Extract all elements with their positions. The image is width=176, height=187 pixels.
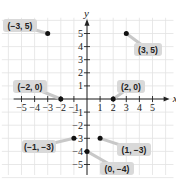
x-axis-label: x [172,92,176,104]
x-axis-arrow-icon [164,97,170,102]
data-point [111,97,116,102]
x-tick-label: −3 [42,102,53,113]
point-label: (−1, −3) [24,142,54,152]
point-label: (1, −3) [122,145,147,155]
y-tick-label: 3 [78,54,83,65]
y-tick-label: −5 [72,159,83,170]
point-label: (0, −4) [105,164,130,174]
y-tick-label: 2 [78,67,83,78]
coordinate-plane: xy −5−4−3−2−11234554321−1−2−3−4−5 (−3, 5… [0,0,176,187]
y-tick-label: 4 [78,41,83,52]
y-tick-label: −4 [72,146,83,157]
point-label: (−3, 5) [8,21,33,31]
data-point [85,149,90,154]
y-tick-label: −2 [72,120,83,131]
data-point [98,136,103,141]
x-tick-label: −5 [16,102,27,113]
y-axis-label: y [83,7,89,19]
data-point [71,136,76,141]
y-tick-label: 5 [78,28,83,39]
x-tick-label: 1 [98,102,103,113]
y-tick-label: 1 [78,80,83,91]
point-label: (2, 0) [121,82,141,92]
data-point [58,97,63,102]
x-tick-label: 2 [111,102,116,113]
data-point [45,31,50,36]
x-tick-label: −2 [55,102,66,113]
x-tick-label: 3 [124,102,129,113]
x-tick-label: −4 [29,102,40,113]
x-tick-label: 5 [150,102,155,113]
x-tick-label: 4 [137,102,142,113]
point-label: (−2, 0) [18,82,43,92]
point-label: (3, 5) [138,45,158,55]
data-point [124,31,129,36]
y-tick-label: −1 [72,107,83,118]
